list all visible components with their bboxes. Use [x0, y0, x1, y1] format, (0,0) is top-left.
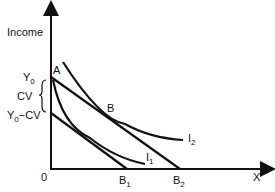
curve-i1-label: I1	[146, 151, 154, 166]
budget-b1-label: B1	[119, 174, 131, 189]
tick-cv: CV	[17, 90, 33, 102]
tick-y0: Y0	[23, 71, 35, 86]
origin-label: 0	[41, 171, 47, 183]
tick-y0-minus-cv: Y0−CV	[7, 109, 41, 124]
budget-b2-label: B2	[173, 174, 185, 189]
y-axis-label: Income	[7, 26, 43, 38]
point-b-label: B	[107, 102, 114, 114]
curve-i2-label: I2	[188, 132, 196, 147]
cv-brace	[39, 80, 46, 112]
cv-diagram: Income X 0 Y0 CV Y0−CV A B B1 B2 I1 I2	[0, 0, 275, 192]
indifference-curve-i1	[53, 80, 145, 164]
point-a-label: A	[53, 64, 61, 76]
x-axis-label: X	[253, 171, 261, 183]
